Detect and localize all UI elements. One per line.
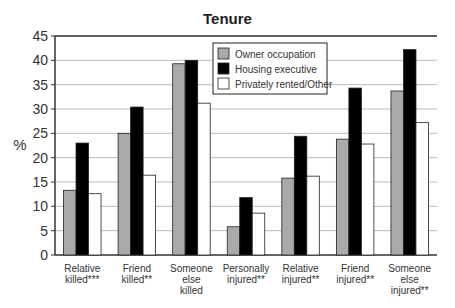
bar xyxy=(416,123,429,255)
x-tick-label: killed*** xyxy=(65,274,100,285)
bar xyxy=(361,144,374,255)
y-tick-label: 25 xyxy=(32,125,48,141)
legend-label: Housing executive xyxy=(235,64,317,75)
bar xyxy=(227,227,240,255)
bar xyxy=(349,88,362,255)
y-tick-label: 40 xyxy=(32,52,48,68)
bar xyxy=(240,198,253,255)
bar xyxy=(403,50,416,255)
y-tick-label: 10 xyxy=(32,198,48,214)
bar xyxy=(185,60,198,255)
bar xyxy=(173,64,186,255)
x-tick-label: killed** xyxy=(122,274,153,285)
x-tick-label: Relative xyxy=(64,263,101,274)
y-tick-label: 20 xyxy=(32,150,48,166)
bar xyxy=(118,133,131,255)
bar xyxy=(307,176,320,255)
x-tick-label: Someone xyxy=(388,263,431,274)
y-tick-label: 5 xyxy=(40,223,48,239)
x-tick-label: Friend xyxy=(341,263,369,274)
x-tick-label: Personally xyxy=(223,263,270,274)
y-tick-label: 35 xyxy=(32,77,48,93)
legend-swatch xyxy=(218,48,229,59)
legend-label: Owner occupation xyxy=(235,49,316,60)
x-tick-label: Relative xyxy=(283,263,320,274)
y-tick-label: 15 xyxy=(32,174,48,190)
y-tick-label: 45 xyxy=(32,28,48,44)
y-tick-label: 30 xyxy=(32,101,48,117)
bar xyxy=(252,213,265,255)
bar xyxy=(64,190,77,255)
x-tick-label: injured** xyxy=(391,285,429,296)
x-tick-label: injured** xyxy=(336,274,374,285)
bar xyxy=(294,136,307,255)
bar xyxy=(131,107,144,255)
bar xyxy=(198,103,211,255)
bar xyxy=(282,178,295,255)
bar-chart: 051015202530354045%Relativekilled***Frie… xyxy=(0,0,455,308)
x-tick-label: else xyxy=(182,274,201,285)
x-tick-label: Friend xyxy=(123,263,151,274)
legend-swatch xyxy=(218,63,229,74)
bar xyxy=(76,143,89,255)
legend-swatch xyxy=(218,78,229,89)
x-tick-label: else xyxy=(401,274,420,285)
x-tick-label: Someone xyxy=(170,263,213,274)
x-tick-label: killed xyxy=(180,285,203,296)
bar xyxy=(89,194,102,255)
legend-label: Privately rented/Other xyxy=(235,79,333,90)
y-tick-label: 0 xyxy=(40,247,48,263)
bar xyxy=(391,91,404,255)
x-tick-label: injured** xyxy=(282,274,320,285)
x-tick-label: injured** xyxy=(227,274,265,285)
bar xyxy=(336,139,349,255)
y-axis-label: % xyxy=(13,136,26,153)
bar xyxy=(143,175,156,255)
